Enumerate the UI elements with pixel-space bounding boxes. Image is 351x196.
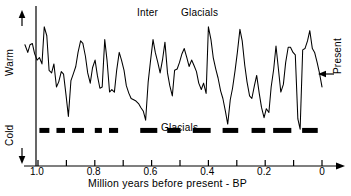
x-axis-tick-label: 1.0 bbox=[30, 166, 44, 177]
temperature-curve bbox=[25, 27, 322, 129]
annotation-glacials-bottom: Glacials bbox=[161, 122, 198, 133]
y-axis-label-warm: Warm bbox=[4, 49, 15, 76]
x-axis-ticks bbox=[38, 160, 322, 166]
annotation-inter: Inter bbox=[137, 7, 158, 18]
glacial-bar bbox=[302, 128, 318, 133]
chart-figure: Inter Glacials Glacials Warm Cold Presen… bbox=[0, 0, 351, 196]
y-axis-label-cold: Cold bbox=[4, 125, 15, 146]
chart-axes bbox=[19, 6, 345, 170]
glacial-bar bbox=[140, 128, 157, 133]
glacial-bar bbox=[72, 128, 84, 133]
glacial-bar bbox=[109, 128, 118, 133]
glacial-bar bbox=[56, 128, 65, 133]
x-axis-arrowhead bbox=[336, 162, 345, 169]
glacial-bar bbox=[252, 128, 266, 133]
right-label-present: Present bbox=[332, 38, 343, 74]
chart-canvas bbox=[0, 0, 351, 196]
annotation-glacials-top: Glacials bbox=[181, 7, 218, 18]
glacial-bar bbox=[95, 128, 102, 133]
x-axis-tick-label: 0.4 bbox=[200, 166, 214, 177]
x-axis-tick-label: 0.6 bbox=[144, 166, 158, 177]
x-axis-tick-label: 0.2 bbox=[257, 166, 271, 177]
glacial-bar bbox=[223, 128, 239, 133]
x-axis-tick-label: 0.8 bbox=[87, 166, 101, 177]
glacial-bar bbox=[273, 128, 291, 133]
x-axis-tick-label: 0 bbox=[319, 166, 325, 177]
x-axis-title: Million years before present - BP bbox=[88, 177, 247, 189]
glacial-bar bbox=[39, 128, 49, 133]
